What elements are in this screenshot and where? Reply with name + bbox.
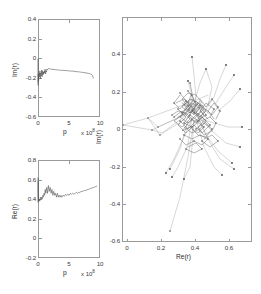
- x-exponent-bottom-left: x 108: [81, 269, 95, 277]
- cluster-markers: [171, 82, 221, 150]
- xlabel-bottom-left: p: [63, 270, 67, 277]
- xtick-label-bl-0: 0: [33, 261, 43, 267]
- ytick-label-r-0: 0.4: [100, 51, 120, 57]
- ytick-label-bl-3: 0.2: [16, 216, 36, 222]
- ytick-label-tl-0: 0.4: [16, 16, 36, 22]
- ytick-label-tl-4: -0.4: [16, 94, 36, 100]
- xtick-label-tl-0: 0: [33, 120, 43, 126]
- x-exponent-base-bl: x 10: [81, 271, 92, 277]
- ytick-label-bl-0: 0.8: [16, 157, 36, 163]
- x-exponent-power-bl: 8: [92, 269, 95, 274]
- ytick-label-tl-1: 0.2: [16, 36, 36, 42]
- ytick-label-r-5: -0.6: [100, 238, 120, 244]
- xtick-label-bl-2: 10: [95, 261, 105, 267]
- x-exponent-top-left: x 108: [81, 128, 95, 136]
- ytick-label-bl-1: 0.6: [16, 177, 36, 183]
- xtick-label-r-0: 0: [122, 245, 132, 251]
- ytick-label-r-4: -0.4: [100, 201, 120, 207]
- dense-cluster-lines: [172, 83, 220, 153]
- xtick-label-r-1: 0.2: [154, 245, 168, 251]
- ylabel-right: Im(r): [96, 130, 103, 144]
- scatter-complex-trajectory: [122, 17, 252, 242]
- figure-canvas: 0.4 0.2 0 -0.2 -0.4 -0.6 0 5 10 Im(r) p …: [0, 0, 261, 294]
- ytick-label-r-1: 0.2: [100, 89, 120, 95]
- xtick-label-tl-1: 5: [64, 120, 74, 126]
- ytick-label-bl-4: 0: [16, 235, 36, 241]
- xtick-label-r-3: 0.6: [222, 245, 236, 251]
- xtick-label-r-2: 0.4: [188, 245, 202, 251]
- outlier-thread: [170, 121, 194, 231]
- x-exponent-base-tl: x 10: [81, 130, 92, 136]
- curve-real-part: [38, 160, 100, 258]
- ytick-label-r-2: 0: [100, 126, 120, 132]
- xtick-label-bl-1: 5: [64, 261, 74, 267]
- xlabel-right: Re(r): [176, 254, 191, 261]
- ylabel-bottom-left: Re(r): [12, 204, 19, 219]
- ytick-label-r-3: -0.2: [100, 164, 120, 170]
- curve-imaginary-part: [38, 19, 100, 117]
- outlier-point-far: [169, 230, 171, 232]
- ylabel-top-left: Im(r): [12, 63, 19, 77]
- ytick-label-tl-3: -0.2: [16, 75, 36, 81]
- ytick-label-bl-2: 0.4: [16, 196, 36, 202]
- xlabel-top-left: p: [63, 129, 67, 136]
- ytick-label-tl-2: 0: [16, 55, 36, 61]
